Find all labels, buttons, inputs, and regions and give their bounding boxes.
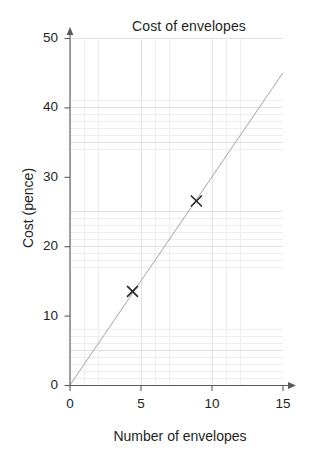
x-tick-label-0: 0 — [55, 396, 85, 411]
data-point-marker[interactable] — [128, 286, 138, 296]
x-tick-label-5: 5 — [126, 396, 156, 411]
y-tick-label-10: 10 — [28, 308, 58, 323]
x-axis-title: Number of envelopes — [60, 428, 300, 444]
chart-container: Cost of envelopes — [0, 0, 313, 452]
y-axis-arrow — [67, 27, 74, 35]
chart-title: Cost of envelopes — [84, 18, 294, 34]
y-tick-label-50: 50 — [28, 30, 58, 45]
x-tick-label-10: 10 — [197, 396, 227, 411]
y-axis-title: Cost (pence) — [20, 128, 36, 288]
line-of-best-fit — [70, 73, 283, 385]
data-point-marker[interactable] — [191, 196, 201, 206]
x-axis-arrow — [288, 382, 296, 389]
series-layer — [70, 38, 283, 385]
y-tick-label-40: 40 — [28, 99, 58, 114]
x-tick-label-15: 15 — [268, 396, 298, 411]
plot-area — [70, 38, 283, 385]
x-axis-ticks — [70, 386, 283, 392]
y-tick-label-0: 0 — [28, 377, 58, 392]
